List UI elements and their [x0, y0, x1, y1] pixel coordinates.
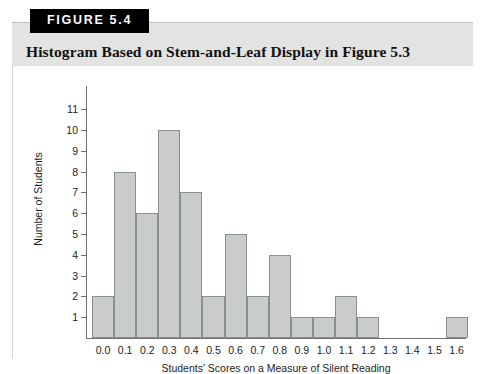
histogram-bar	[225, 234, 247, 338]
y-tick-label: 7	[72, 186, 78, 198]
x-tick-label: 0.5	[206, 344, 221, 356]
histogram-bar	[180, 192, 202, 338]
y-tick-mark	[81, 234, 86, 235]
y-tick-mark	[81, 109, 86, 110]
y-tick-label: 3	[72, 270, 78, 282]
y-tick-mark	[81, 130, 86, 131]
y-tick-label: 11	[67, 103, 78, 115]
histogram-chart: Number of Students 1110987654321 0.00.10…	[13, 66, 474, 358]
histogram-bar	[114, 172, 136, 338]
x-tick-label: 0.2	[140, 344, 155, 356]
x-tick-label: 0.9	[295, 344, 310, 356]
histogram-bar	[313, 317, 335, 338]
y-tick-label: 5	[72, 228, 78, 240]
x-axis-line	[86, 338, 466, 339]
histogram-bar	[269, 255, 291, 338]
histogram-bar	[335, 296, 357, 338]
y-tick-label: 2	[72, 290, 78, 302]
figure-card: FIGURE 5.4 Histogram Based on Stem-and-L…	[12, 22, 473, 358]
x-tick-label: 1.6	[449, 344, 464, 356]
x-tick-label: 1.3	[383, 344, 398, 356]
histogram-bar	[92, 296, 114, 338]
histogram-bar	[291, 317, 313, 338]
y-tick-label: 8	[72, 166, 78, 178]
y-axis-line	[86, 86, 87, 339]
x-tick-label: 1.4	[405, 344, 420, 356]
figure-title: Histogram Based on Stem-and-Leaf Display…	[26, 43, 410, 61]
histogram-bar	[247, 296, 269, 338]
y-tick-mark	[81, 296, 86, 297]
figure-number-badge: FIGURE 5.4	[30, 9, 149, 33]
x-tick-label: 0.0	[96, 344, 111, 356]
y-tick-mark	[81, 192, 86, 193]
y-tick-label: 10	[66, 124, 78, 136]
y-tick-label: 6	[72, 207, 78, 219]
x-tick-label: 0.6	[228, 344, 243, 356]
histogram-bar	[446, 317, 468, 338]
y-axis-title: Number of Students	[32, 119, 44, 279]
x-tick-label: 0.1	[118, 344, 133, 356]
x-tick-label: 1.2	[361, 344, 376, 356]
x-tick-label: 1.1	[339, 344, 354, 356]
y-tick-mark	[81, 276, 86, 277]
x-tick-label: 1.0	[317, 344, 332, 356]
x-tick-label: 1.5	[427, 344, 442, 356]
x-axis-title: Students' Scores on a Measure of Silent …	[86, 362, 466, 374]
y-tick-label: 9	[72, 145, 78, 157]
y-tick-label: 4	[72, 249, 78, 261]
y-tick-mark	[81, 255, 86, 256]
y-tick-mark	[81, 213, 86, 214]
figure-header-band: FIGURE 5.4 Histogram Based on Stem-and-L…	[12, 22, 473, 66]
histogram-bar	[202, 296, 224, 338]
histogram-bar	[158, 130, 180, 338]
y-tick-label: 1	[72, 311, 78, 323]
y-tick-mark	[81, 172, 86, 173]
y-tick-mark	[81, 317, 86, 318]
histogram-bar	[357, 317, 379, 338]
x-tick-label: 0.3	[162, 344, 177, 356]
y-tick-mark	[81, 151, 86, 152]
x-tick-label: 0.7	[250, 344, 265, 356]
x-tick-label: 0.8	[272, 344, 287, 356]
plot-area: 1110987654321 0.00.10.20.30.40.50.60.70.…	[86, 86, 466, 339]
histogram-bar	[136, 213, 158, 338]
figure-body: Number of Students 1110987654321 0.00.10…	[12, 66, 474, 358]
x-tick-label: 0.4	[184, 344, 199, 356]
